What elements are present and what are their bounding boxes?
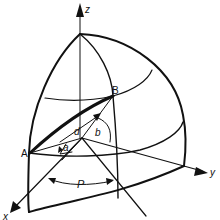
- latitude-upper: [45, 70, 152, 100]
- point-b-label: B: [112, 85, 119, 96]
- p-left-arrow-icon: [48, 178, 56, 184]
- p-right-arrow-icon: [106, 178, 114, 185]
- outer-meridian-yz: [80, 34, 186, 166]
- angle-p-label: P: [77, 178, 85, 190]
- equator-arc: [29, 166, 184, 212]
- angle-a-label: a: [63, 142, 69, 153]
- z-axis-label: z: [84, 4, 90, 15]
- sphere-octant-diagram: z x y A B d b a P: [0, 0, 220, 220]
- point-a-label: A: [21, 148, 28, 159]
- angle-d-label: d: [74, 126, 80, 137]
- radial-line: [82, 138, 146, 216]
- angle-b-label: b: [95, 127, 101, 138]
- x-axis-label: x: [2, 211, 9, 220]
- great-circle-arc-ab: [30, 96, 113, 153]
- d-arrow-icon: [93, 113, 101, 121]
- y-arrow-icon: [194, 167, 208, 176]
- y-axis: [82, 138, 202, 171]
- z-arrow-icon: [76, 3, 84, 17]
- latitude-middle: [29, 122, 183, 156]
- y-axis-label: y: [209, 167, 216, 178]
